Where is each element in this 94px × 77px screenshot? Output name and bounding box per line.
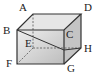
label-e: E: [25, 37, 32, 49]
label-h: H: [84, 42, 92, 54]
label-f: F: [6, 57, 12, 69]
cuboid-diagram: A D B C E H F G: [0, 0, 94, 77]
label-g: G: [67, 62, 75, 74]
label-c: C: [66, 28, 73, 40]
label-a: A: [19, 1, 27, 13]
label-d: D: [84, 1, 92, 13]
label-b: B: [3, 24, 10, 36]
